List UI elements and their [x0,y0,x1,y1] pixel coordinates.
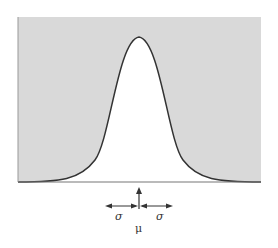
sigma-left-arrow [105,204,138,209]
normal-curve-diagram [0,0,278,248]
mu-label: μ [135,222,142,235]
sigma-left-label: σ [115,210,123,223]
sigma-right-label: σ [156,210,164,223]
sigma-right-arrow [140,204,173,209]
